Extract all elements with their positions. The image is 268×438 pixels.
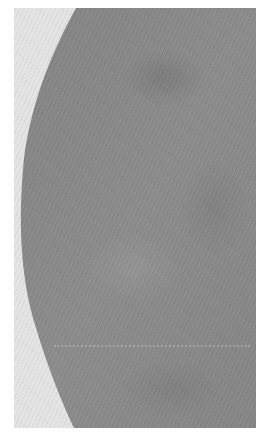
tissue-region	[14, 8, 256, 428]
image-frame	[14, 8, 256, 428]
dotted-line	[54, 345, 250, 347]
